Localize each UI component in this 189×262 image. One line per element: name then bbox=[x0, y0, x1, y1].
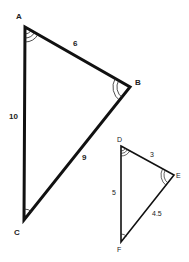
side-label-ac: 10 bbox=[9, 112, 18, 121]
similar-triangles-diagram: A B C 6 9 10 D E F 3 4.5 5 bbox=[0, 0, 189, 262]
side-label-ab: 6 bbox=[73, 39, 78, 48]
vertex-label-b: B bbox=[135, 78, 141, 87]
side-label-df: 5 bbox=[112, 189, 116, 196]
triangle-def-outline bbox=[121, 146, 174, 242]
vertex-label-e: E bbox=[176, 172, 181, 179]
side-label-de: 3 bbox=[150, 151, 154, 158]
vertex-label-f: F bbox=[117, 246, 121, 253]
vertex-label-a: A bbox=[16, 12, 22, 21]
vertex-label-d: D bbox=[117, 136, 122, 143]
vertex-label-c: C bbox=[14, 228, 20, 237]
side-label-ef: 4.5 bbox=[152, 210, 162, 217]
side-label-bc: 9 bbox=[82, 153, 87, 162]
angle-f-arc bbox=[121, 234, 127, 236]
triangle-def: D E F 3 4.5 5 bbox=[112, 136, 181, 253]
